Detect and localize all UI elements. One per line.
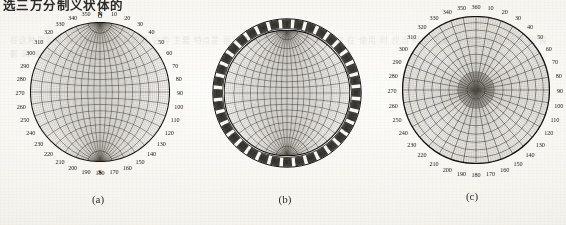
net-a: 0102030405060708090100110120130140150160… [30,22,170,162]
degree-label: 10 [111,10,117,17]
figure-row: 0102030405060708090100110120130140150160… [0,0,566,225]
degree-label: 190 [457,169,466,176]
degree-label: 20 [124,13,130,20]
degree-label: 270 [388,87,397,94]
degree-label: 100 [174,102,183,109]
degree-label: 110 [171,116,180,123]
caption-a: (a) [8,193,188,205]
degree-label: 80 [176,75,182,82]
net-c: 3601020304050607080901001101201301401501… [402,16,550,164]
degree-label: 80 [556,72,562,79]
degree-label: 90 [177,89,183,96]
degree-label: 280 [389,72,398,79]
degree-label: 170 [486,169,495,176]
degree-label: 280 [17,75,26,82]
degree-label: 170 [109,167,118,174]
degree-label: 250 [20,116,29,123]
degree-label: 340 [443,8,452,15]
north-pole-label-a: N [97,10,102,18]
degree-label: 10 [488,4,494,11]
degree-label: 250 [393,115,402,122]
degree-label: 260 [17,102,26,109]
net-a-svg [30,22,170,162]
south-pole-label-a: S [98,168,102,176]
degree-label: 160 [500,165,509,172]
net-c-svg [402,16,550,164]
degree-label: 190 [82,167,91,174]
degree-label: 180 [472,171,481,178]
degree-label: 20 [502,8,508,15]
degree-label: 340 [68,13,77,20]
degree-label: 360 [472,3,481,10]
degree-label: 200 [68,164,77,171]
degree-label: 260 [389,101,398,108]
degree-label: 290 [393,58,402,65]
degree-label: 350 [457,4,466,11]
degree-label: 200 [443,165,452,172]
degree-label: 110 [551,115,560,122]
caption-b: (b) [190,193,380,205]
degree-label: 90 [557,87,563,94]
degree-label: 100 [554,101,563,108]
panel-b: 0102030405060708090100110120130140150160… [190,0,380,225]
net-b: 0102030405060708090100110120130140150160… [212,18,362,168]
degree-label: 70 [552,58,558,65]
caption-c: (c) [378,190,566,202]
degree-label: 270 [16,89,25,96]
degree-label: 160 [123,164,132,171]
panel-c: 3601020304050607080901001101201301401501… [378,0,566,225]
panel-a: 0102030405060708090100110120130140150160… [8,0,188,225]
degree-label: 70 [172,61,178,68]
degree-label: 290 [20,61,29,68]
net-b-svg [212,18,362,168]
degree-label: 350 [82,10,91,17]
